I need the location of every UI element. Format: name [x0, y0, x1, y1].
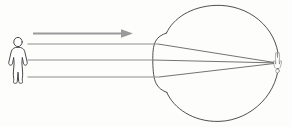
- retinal-figure-head: [276, 69, 280, 73]
- ray-from-feet-refracted: [159, 63, 275, 77]
- diagram-canvas: [0, 0, 292, 127]
- ray-from-head-refracted: [158, 44, 275, 63]
- figure-head: [14, 37, 22, 46]
- retinal-image-inverted-figure: [273, 53, 281, 73]
- arrow-head-icon: [121, 29, 133, 38]
- ray-from-center: [28, 60, 276, 63]
- figure-body: [9, 47, 28, 83]
- cornea-outline: [153, 33, 167, 92]
- sclera-outline: [167, 5, 279, 121]
- ray-from-center-refracted: [153, 60, 275, 63]
- light-rays-group: [28, 44, 276, 77]
- eye-optics-diagram: Human eye optics: distant object imaged …: [0, 0, 292, 127]
- eyeball-group: [153, 5, 279, 121]
- retinal-figure-body: [273, 53, 281, 69]
- object-human-figure: [9, 37, 28, 83]
- light-direction-arrow: [33, 29, 133, 38]
- ray-from-feet: [28, 63, 276, 77]
